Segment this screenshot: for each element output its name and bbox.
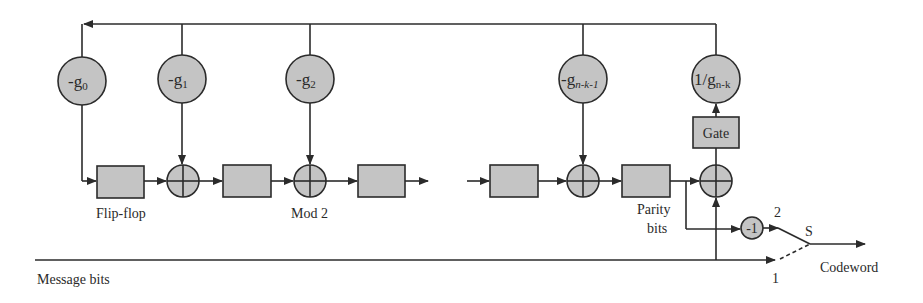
parity-label-1: Parity [637, 202, 670, 217]
parity-branch: -1 [686, 181, 778, 239]
flip-flop-3 [358, 165, 405, 197]
xor-2 [294, 165, 326, 197]
mod2-label: Mod 2 [291, 206, 328, 221]
xor-1 [167, 165, 199, 197]
switch-pos-1: 1 [772, 271, 779, 286]
switch-label: S [805, 224, 813, 239]
svg-text:Gate: Gate [703, 126, 729, 141]
svg-text:-1: -1 [746, 221, 758, 236]
encoder-diagram: -g0 -g1 -g2 -gn-k-1 1/gn-k Gate [0, 0, 923, 303]
flip-flop-label: Flip-flop [96, 206, 146, 221]
flip-flop-4 [490, 165, 538, 197]
feedback-bus [82, 24, 716, 55]
flip-flop-5 [622, 165, 670, 197]
message-bits-label: Message bits [37, 272, 110, 287]
switch-pos-2: 2 [774, 205, 781, 220]
shift-register [97, 165, 732, 198]
parity-label-2: bits [647, 221, 667, 236]
coef-g1: -g1 [158, 55, 206, 164]
gate-box: Gate [693, 104, 739, 165]
coef-g0: -g0 [58, 34, 106, 181]
coef-gnk: 1/gn-k [692, 55, 740, 103]
xor-4 [700, 165, 732, 197]
switch-s [778, 228, 865, 259]
codeword-label: Codeword [820, 260, 878, 275]
flip-flop-1 [97, 166, 144, 198]
flip-flop-2 [223, 165, 271, 197]
xor-3 [567, 165, 599, 197]
coef-gnk1: -gn-k-1 [559, 55, 607, 164]
coef-g2: -g2 [286, 55, 334, 164]
